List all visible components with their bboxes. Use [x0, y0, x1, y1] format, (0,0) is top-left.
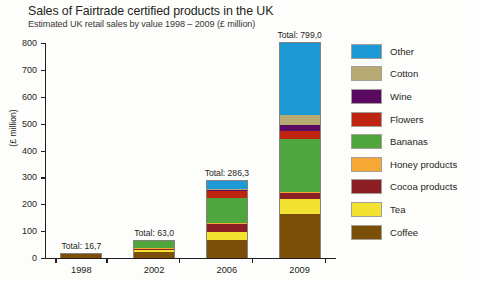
- legend-swatch-icon: [352, 45, 381, 58]
- legend-item-label: Flowers: [390, 114, 424, 125]
- y-axis-tick-label: 400: [22, 146, 37, 156]
- bar-segment-tea[interactable]: [207, 232, 247, 240]
- legend-item-label: Honey products: [390, 159, 457, 170]
- y-axis-tick-label: 500: [22, 119, 37, 129]
- bar-segment-cocoa-products[interactable]: [280, 193, 320, 200]
- legend-swatch-icon: [352, 158, 381, 171]
- legend-rows: OtherCottonWineFlowersBananasHoney produ…: [352, 40, 476, 243]
- bar-segment-other[interactable]: [280, 43, 320, 115]
- bar-segment-coffee[interactable]: [61, 254, 101, 258]
- y-axis-tick-label: 600: [22, 92, 37, 102]
- legend-swatch-icon: [352, 203, 381, 216]
- legend: OtherCottonWineFlowersBananasHoney produ…: [352, 40, 476, 243]
- bar-segment-cocoa-products[interactable]: [207, 224, 247, 232]
- y-axis-tick-label: 0: [32, 253, 37, 263]
- chart-title: Sales of Fairtrade certified products in…: [28, 4, 273, 18]
- legend-item-honey-products[interactable]: Honey products: [352, 153, 476, 176]
- legend-item-label: Coffee: [390, 227, 418, 238]
- bar-segment-coffee[interactable]: [207, 240, 247, 258]
- legend-item-label: Wine: [390, 91, 412, 102]
- y-axis-tick: [41, 70, 46, 71]
- y-axis-tick-label: 700: [22, 65, 37, 75]
- y-axis-tick: [41, 177, 46, 178]
- y-axis-tick: [41, 204, 46, 205]
- legend-item-label: Cocoa products: [390, 181, 457, 192]
- bar-segment-tea[interactable]: [280, 199, 320, 214]
- legend-swatch-icon: [352, 135, 381, 148]
- legend-item-label: Cotton: [390, 68, 418, 79]
- bar-segment-other[interactable]: [207, 181, 247, 189]
- legend-item-coffee[interactable]: Coffee: [352, 221, 476, 244]
- x-axis-tick-label: 2002: [144, 265, 165, 275]
- legend-item-tea[interactable]: Tea: [352, 198, 476, 221]
- y-axis-tick-label: 200: [22, 199, 37, 209]
- legend-item-label: Other: [390, 46, 414, 57]
- legend-item-other[interactable]: Other: [352, 40, 476, 63]
- y-axis-tick: [41, 151, 46, 152]
- legend-item-label: Tea: [390, 204, 405, 215]
- bar-total-label: Total: 799,0: [277, 30, 321, 40]
- plot-area: 8007006005004003002001000 Total: 16,7Tot…: [45, 43, 336, 258]
- chart-root: Sales of Fairtrade certified products in…: [0, 0, 479, 281]
- bar-total-label: Total: 16,7: [62, 241, 102, 251]
- legend-item-label: Bananas: [390, 136, 428, 147]
- bar-segment-bananas[interactable]: [280, 139, 320, 191]
- y-axis-tick: [41, 231, 46, 232]
- x-axis-tick-label: 2009: [289, 265, 310, 275]
- bar-total-label: Total: 286,3: [205, 168, 249, 178]
- stacked-bar[interactable]: [280, 43, 320, 258]
- x-axis-tick-label: 2006: [217, 265, 238, 275]
- stacked-bar[interactable]: [207, 181, 247, 258]
- x-axis-tick: [106, 258, 107, 263]
- legend-item-wine[interactable]: Wine: [352, 85, 476, 108]
- y-axis-tick-label: 300: [22, 172, 37, 182]
- x-axis-tick: [325, 258, 326, 263]
- y-axis-tick: [41, 43, 46, 44]
- x-axis-tick-label: 1998: [71, 265, 92, 275]
- legend-swatch-icon: [352, 226, 381, 239]
- legend-item-cotton[interactable]: Cotton: [352, 63, 476, 86]
- legend-item-bananas[interactable]: Bananas: [352, 130, 476, 153]
- y-axis-label: (£ million): [8, 109, 18, 146]
- legend-swatch-icon: [352, 113, 381, 126]
- legend-item-flowers[interactable]: Flowers: [352, 108, 476, 131]
- x-axis-tick: [55, 258, 56, 263]
- x-axis-tick: [179, 258, 180, 263]
- bar-segment-flowers[interactable]: [280, 131, 320, 140]
- bar-segment-coffee[interactable]: [134, 252, 174, 258]
- legend-swatch-icon: [352, 67, 381, 80]
- bar-segment-bananas[interactable]: [207, 198, 247, 223]
- stacked-bar[interactable]: [134, 241, 174, 258]
- bar-segment-cotton[interactable]: [280, 115, 320, 124]
- y-axis-tick: [41, 97, 46, 98]
- chart-subtitle: Estimated UK retail sales by value 1998 …: [28, 19, 255, 29]
- bar-segment-coffee[interactable]: [280, 214, 320, 258]
- y-axis-tick: [41, 258, 46, 259]
- y-axis-tick: [41, 124, 46, 125]
- legend-item-cocoa-products[interactable]: Cocoa products: [352, 176, 476, 199]
- y-axis-tick-label: 100: [22, 226, 37, 236]
- stacked-bar[interactable]: [61, 254, 101, 258]
- x-axis-line: [45, 258, 336, 259]
- legend-swatch-icon: [352, 180, 381, 193]
- x-axis-tick: [252, 258, 253, 263]
- legend-swatch-icon: [352, 90, 381, 103]
- bar-total-label: Total: 63,0: [134, 228, 174, 238]
- y-axis-tick-label: 800: [22, 38, 37, 48]
